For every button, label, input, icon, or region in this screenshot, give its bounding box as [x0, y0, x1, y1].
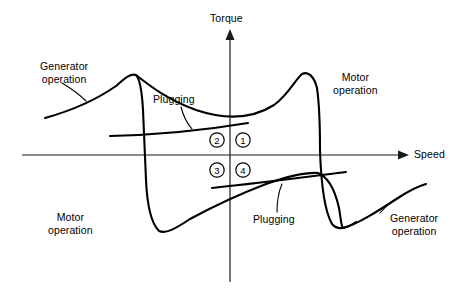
- plugging-upper-label: Plugging: [153, 93, 195, 106]
- diagram-canvas: 1 2 3 4: [0, 0, 467, 298]
- motor-operation-bottom-left-label: Motor operation: [48, 211, 93, 236]
- speed-axis-label: Speed: [414, 148, 445, 161]
- torque-speed-diagram: 1 2 3 4 Torque Speed Generator operation…: [0, 0, 467, 298]
- speed-axis-arrowhead: [398, 151, 409, 160]
- quadrant-1-label: 1: [240, 135, 245, 146]
- quadrant-1-marker: 1: [236, 133, 250, 147]
- generator-operation-bottom-right-label: Generator operation: [390, 212, 438, 237]
- torque-axis-arrowhead: [226, 29, 235, 40]
- quadrant-2-marker: 2: [210, 133, 224, 147]
- generator-operation-top-left-label: Generator operation: [40, 60, 88, 85]
- leader-generator-top-left: [62, 83, 86, 101]
- plugging-lower-label: Plugging: [253, 213, 295, 226]
- quadrant-3-marker: 3: [210, 163, 224, 177]
- motor-operation-top-right-label: Motor operation: [333, 71, 378, 96]
- quadrant-4-marker: 4: [236, 163, 250, 177]
- plugging-line-upper: [110, 123, 248, 136]
- leader-plugging-lower: [277, 184, 282, 212]
- torque-axis-label: Torque: [210, 12, 243, 25]
- quadrant-3-label: 3: [214, 165, 219, 176]
- quadrant-4-label: 4: [240, 165, 245, 176]
- leader-plugging-upper: [181, 107, 192, 129]
- quadrant-2-label: 2: [214, 135, 219, 146]
